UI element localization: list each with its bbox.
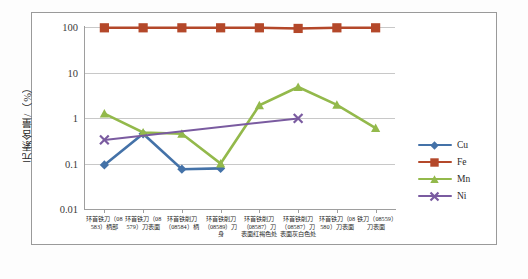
series-plot-area xyxy=(85,27,395,209)
data-point-marker xyxy=(216,23,225,32)
y-tick-label: 0.01 xyxy=(60,204,78,215)
legend-swatch-triangle-icon xyxy=(418,173,452,185)
x-tick-mark xyxy=(298,209,299,213)
x-tick-mark xyxy=(104,209,105,213)
x-tick-mark xyxy=(182,209,183,213)
x-tick-label: 环首铁削刀（08589）刀身 xyxy=(201,215,240,273)
legend-swatch-diamond-icon xyxy=(418,139,452,151)
chart-figure: 元素含量/（%） 1001010.10.01 环首铁刀（08583）柄部环首铁刀… xyxy=(0,0,528,279)
data-point-marker xyxy=(139,23,148,32)
x-tick-mark xyxy=(143,209,144,213)
data-point-marker xyxy=(294,24,303,33)
x-tick-mark xyxy=(376,209,377,213)
legend-label: Fe xyxy=(452,157,467,167)
x-tick-mark xyxy=(259,209,260,213)
x-axis-tick-labels: 环首铁刀（08583）柄部环首铁刀（08579）刀表面环首铁削刀（08584）柄… xyxy=(85,215,395,273)
x-tick-mark xyxy=(221,209,222,213)
data-point-marker xyxy=(430,158,438,166)
legend-item-fe[interactable]: Fe xyxy=(418,153,492,170)
legend-item-mn[interactable]: Mn xyxy=(418,170,492,187)
x-tick-label: 环首铁削刀（08587）刀表面灰白色处 xyxy=(279,215,318,273)
data-point-marker xyxy=(294,82,303,91)
legend-label: Ni xyxy=(452,191,467,201)
legend-marker-icon xyxy=(429,174,440,185)
legend-swatch-square-icon xyxy=(418,156,452,168)
y-tick-label: 10 xyxy=(68,67,79,78)
y-tick-label: 100 xyxy=(62,22,78,33)
data-point-marker xyxy=(255,23,264,32)
legend-label: Cu xyxy=(452,140,468,150)
legend-item-ni[interactable]: Ni xyxy=(418,187,492,204)
legend-marker-icon xyxy=(429,191,440,202)
legend-label: Mn xyxy=(452,174,470,184)
legend-item-cu[interactable]: Cu xyxy=(418,136,492,153)
data-point-marker xyxy=(177,23,186,32)
data-point-marker xyxy=(100,23,109,32)
legend-marker-icon xyxy=(429,140,440,151)
x-tick-label: 环首铁削刀（08587）刀表面红褐色处 xyxy=(240,215,279,273)
x-tick-mark xyxy=(337,209,338,213)
y-axis-tick-labels: 1001010.10.01 xyxy=(40,0,78,279)
data-point-marker xyxy=(431,192,439,200)
legend-swatch-cross-icon xyxy=(418,190,452,202)
data-point-marker xyxy=(430,141,438,149)
y-axis-title: 元素含量/（%） xyxy=(18,62,36,182)
data-point-marker xyxy=(332,23,341,32)
data-point-marker xyxy=(371,23,380,32)
x-tick-label: 环首铁刀（08579）刀表面 xyxy=(124,215,163,273)
legend-marker-icon xyxy=(429,157,440,168)
y-tick-label: 0.1 xyxy=(65,158,78,169)
x-tick-label: 铁刀（08559）刀表面 xyxy=(356,215,395,273)
data-point-marker xyxy=(100,109,109,118)
x-tick-label: 环首铁削刀（08584）柄 xyxy=(163,215,202,273)
x-axis-line xyxy=(84,209,396,210)
x-tick-label: 环首铁刀（08580）刀表面 xyxy=(318,215,357,273)
y-tick-label: 1 xyxy=(73,113,78,124)
data-point-marker xyxy=(430,175,438,183)
x-tick-label: 环首铁刀（08583）柄部 xyxy=(85,215,124,273)
chart-legend: CuFeMnNi xyxy=(418,136,492,204)
